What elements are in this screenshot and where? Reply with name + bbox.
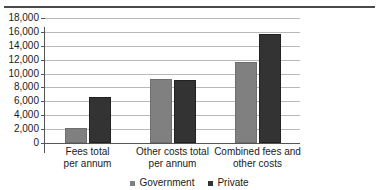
y-axis-tick xyxy=(41,129,45,130)
bar-private-0 xyxy=(89,97,111,143)
y-axis-tick xyxy=(41,143,45,144)
bar-government-1 xyxy=(150,79,172,143)
y-axis-tick xyxy=(41,32,45,33)
legend-label-private: Private xyxy=(217,177,248,189)
bar-government-0 xyxy=(65,128,87,143)
y-axis-tick-label: 16,000 xyxy=(8,27,39,37)
y-axis-tick-label: 2,000 xyxy=(14,124,39,134)
chart-title-cropped xyxy=(60,0,320,5)
x-axis-label-line: Combined fees and xyxy=(207,146,308,158)
chart-legend: Government Private xyxy=(0,177,379,189)
y-axis-tick-label: 12,000 xyxy=(8,55,39,65)
plot-area: 18,00016,00014,00012,00010,0008,0006,000… xyxy=(45,18,300,143)
gridline: 18,000 xyxy=(45,18,300,19)
y-axis-tick-label: 6,000 xyxy=(14,96,39,106)
y-axis-tick xyxy=(41,18,45,19)
y-axis-tick-label: 8,000 xyxy=(14,82,39,92)
bar-government-2 xyxy=(235,62,257,143)
y-axis-tick xyxy=(41,46,45,47)
bar-chart: 18,00016,00014,00012,00010,0008,0006,000… xyxy=(0,9,379,190)
y-axis-tick xyxy=(41,74,45,75)
y-axis-tick-label: 18,000 xyxy=(8,13,39,23)
y-axis-tick xyxy=(41,101,45,102)
y-axis-tick xyxy=(41,115,45,116)
gridline: 16,000 xyxy=(45,32,300,33)
legend-label-government: Government xyxy=(139,177,194,189)
y-axis-tick-label: 10,000 xyxy=(8,69,39,79)
legend-item-private: Private xyxy=(208,177,248,189)
x-axis-label-line: other costs xyxy=(207,158,308,170)
legend-item-government: Government xyxy=(130,177,194,189)
y-axis-tick xyxy=(41,60,45,61)
legend-swatch-private-icon xyxy=(208,181,213,186)
title-divider-rule xyxy=(4,6,375,8)
bar-private-2 xyxy=(259,34,281,143)
x-axis-label-2: Combined fees andother costs xyxy=(207,146,308,170)
gridline: 0 xyxy=(45,143,300,144)
bar-private-1 xyxy=(174,80,196,143)
y-axis-tick-label: 4,000 xyxy=(14,110,39,120)
y-axis-tick xyxy=(41,87,45,88)
y-axis-tick-label: 14,000 xyxy=(8,41,39,51)
legend-swatch-government-icon xyxy=(130,181,135,186)
